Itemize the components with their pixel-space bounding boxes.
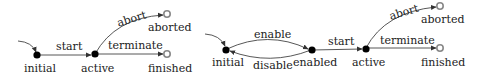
edge-label-start: start: [56, 40, 83, 53]
state-diagrams: start abort terminate initial active abo…: [0, 0, 478, 76]
node-finished: [164, 51, 170, 57]
node-label-active: active: [352, 56, 385, 69]
node-label-aborted: aborted: [421, 13, 464, 26]
diagram-with-enable: enable disable start abort terminate ini…: [205, 2, 465, 72]
edge-label-disable: disable: [253, 59, 293, 72]
entry-arrow: [205, 34, 225, 46]
node-label-enabled: enabled: [293, 56, 337, 69]
node-label-initial: initial: [24, 62, 57, 75]
node-finished: [437, 45, 443, 51]
diagram-simple: start abort terminate initial active abo…: [18, 8, 192, 75]
node-aborted: [437, 3, 443, 9]
edge-label-terminate: terminate: [108, 39, 163, 52]
node-label-finished: finished: [148, 62, 192, 75]
edge-label-terminate: terminate: [380, 34, 435, 47]
entry-arrow: [18, 41, 36, 52]
node-active: [362, 45, 369, 52]
edge-label-enable: enable: [254, 28, 291, 41]
node-active: [91, 50, 98, 57]
node-initial: [33, 51, 40, 58]
node-aborted: [164, 11, 170, 17]
edge-label-abort: abort: [388, 2, 421, 23]
edge-label-start: start: [328, 35, 355, 48]
node-label-active: active: [81, 62, 114, 75]
node-enabled: [308, 46, 315, 53]
node-initial: [222, 46, 229, 53]
node-label-initial: initial: [212, 56, 245, 69]
node-label-finished: finished: [421, 56, 465, 69]
edge-label-abort: abort: [116, 8, 149, 29]
edge-start: [312, 49, 362, 50]
node-label-aborted: aborted: [148, 21, 191, 34]
